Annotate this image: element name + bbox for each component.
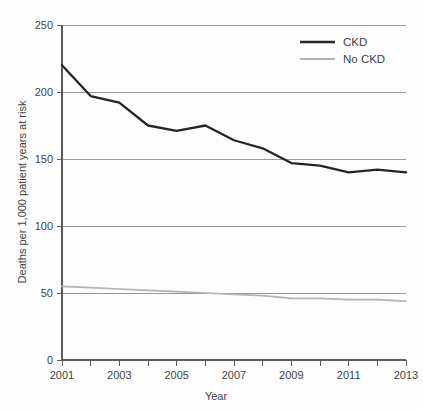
y-tick-label-150: 150: [35, 153, 53, 165]
x-tick-label-2007: 2007: [222, 369, 246, 381]
x-tick-label-2001: 2001: [50, 369, 74, 381]
x-tick-label-2005: 2005: [164, 369, 188, 381]
y-tick-label-200: 200: [35, 86, 53, 98]
x-tick-label-2013: 2013: [394, 369, 418, 381]
line-chart: 250 200 150 100 50 0 2001 2003: [0, 0, 423, 411]
x-tick-label-2003: 2003: [107, 369, 131, 381]
x-tick-label-2009: 2009: [279, 369, 303, 381]
y-tick-label-250: 250: [35, 19, 53, 31]
y-tick-label-0: 0: [47, 354, 53, 366]
y-tick-label-100: 100: [35, 220, 53, 232]
x-tick-label-2011: 2011: [337, 369, 361, 381]
y-tick-label-50: 50: [41, 287, 53, 299]
x-axis-title: Year: [205, 390, 228, 402]
legend-label-no-ckd: No CKD: [343, 53, 385, 65]
legend-label-ckd: CKD: [343, 36, 367, 48]
chart-figure: 250 200 150 100 50 0 2001 2003: [0, 0, 423, 411]
y-axis-title: Deaths per 1,000 patient years at risk: [16, 100, 28, 283]
